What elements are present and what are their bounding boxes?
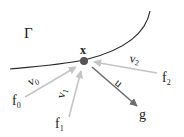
vector-v2-arrow bbox=[94, 62, 157, 73]
region-label-gamma: Γ bbox=[24, 25, 33, 41]
vector-label-v0: v0 bbox=[25, 72, 40, 90]
source-label-f1: f1 bbox=[55, 116, 64, 133]
vector-v1-arrow bbox=[69, 71, 81, 117]
source-label-f2: f2 bbox=[162, 70, 171, 87]
diagram-canvas: Γ x v0 v1 v2 u f0 f1 f2 g bbox=[0, 0, 184, 137]
point-x-dot bbox=[80, 57, 88, 65]
vector-label-u: u bbox=[112, 76, 126, 91]
vector-label-v1: v1 bbox=[53, 86, 70, 100]
point-label-x: x bbox=[80, 43, 86, 57]
source-label-f0: f0 bbox=[12, 93, 21, 110]
vector-label-v2: v2 bbox=[128, 51, 140, 68]
target-label-g: g bbox=[139, 107, 146, 122]
